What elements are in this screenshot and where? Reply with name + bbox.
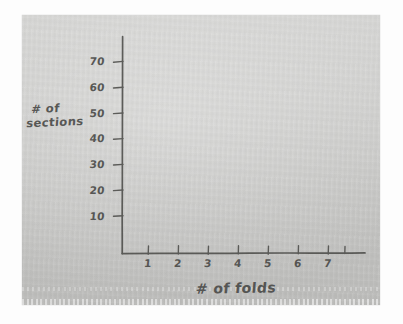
y-tick-label-10: 10 bbox=[82, 210, 105, 222]
y-tick-label-50: 50 bbox=[82, 107, 105, 119]
x-tick-label-5: 5 bbox=[259, 257, 276, 269]
x-tick-label-1: 1 bbox=[139, 257, 156, 269]
x-tick-label-7: 7 bbox=[319, 257, 336, 269]
screenshot-root: 70 60 50 40 30 20 10 # of sections 1 2 3… bbox=[0, 0, 403, 324]
y-tick-label-20: 20 bbox=[82, 184, 105, 196]
y-axis-title-line1: # of bbox=[31, 101, 60, 116]
paper-perforation-line bbox=[22, 299, 380, 305]
x-tick-label-6: 6 bbox=[289, 257, 306, 269]
y-axis-title-line2: sections bbox=[26, 114, 84, 130]
y-tick-label-30: 30 bbox=[82, 158, 105, 170]
x-tick-label-2: 2 bbox=[169, 257, 186, 269]
y-tick-label-70: 70 bbox=[82, 55, 105, 67]
y-tick-label-40: 40 bbox=[82, 132, 105, 144]
x-axis-title: # of folds bbox=[195, 279, 277, 296]
y-tick-label-60: 60 bbox=[82, 81, 105, 93]
y-axis-title: # of sections bbox=[30, 100, 85, 130]
x-tick-label-3: 3 bbox=[199, 257, 216, 269]
x-tick-label-4: 4 bbox=[229, 257, 246, 269]
